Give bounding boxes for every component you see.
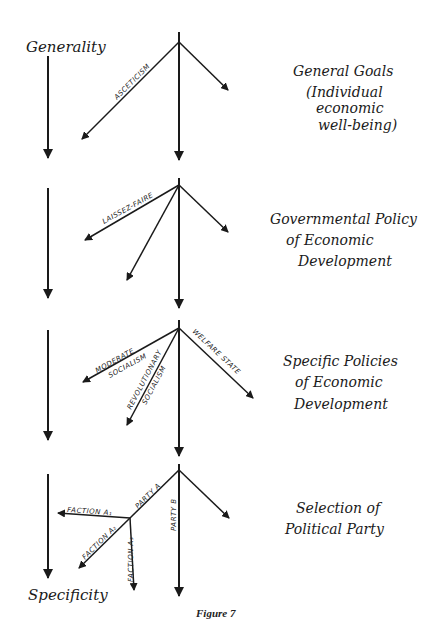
welfare-state-label: WELFARE STATE	[191, 328, 242, 377]
svg-text:of Economic: of Economic	[295, 374, 383, 390]
figure-caption: Figure 7	[195, 607, 236, 619]
level-2-description: Governmental Policy of Economic Developm…	[270, 211, 418, 269]
party-b-label: PARTY B	[170, 498, 178, 531]
svg-text:(Individual: (Individual	[306, 84, 383, 100]
level-general-goals: ASCETICISM General Goals (Individual eco…	[82, 32, 397, 160]
svg-text:economic: economic	[316, 100, 384, 116]
branch-welfare-state	[179, 328, 253, 398]
specificity-label: Specificity	[28, 586, 108, 604]
faction-a2-label: FACTION A₂	[81, 524, 119, 562]
svg-text:Political Party: Political Party	[284, 521, 385, 537]
decision-tree-diagram: Generality Specificity ASCETICISM Genera…	[0, 0, 428, 628]
asceticism-label: ASCETICISM	[112, 62, 152, 102]
level-selection-party: PARTY A PARTY B FACTION A₁ FACTION A₂ FA…	[58, 464, 385, 596]
branch-asceticism	[82, 42, 179, 139]
generality-label: Generality	[26, 38, 106, 56]
branch-right-2	[179, 185, 228, 232]
svg-text:Specific Policies: Specific Policies	[283, 353, 398, 369]
branch-laissez-faire	[85, 185, 179, 240]
level-specific-policies: MODERATE SOCIALISM REVOLUTIONARY SOCIALI…	[83, 320, 398, 456]
svg-text:Development: Development	[297, 253, 392, 269]
laissez-faire-label: LAISSEZ-FAIRE	[101, 191, 155, 226]
level-governmental-policy: LAISSEZ-FAIRE Governmental Policy of Eco…	[85, 178, 418, 308]
faction-a3-label: FACTION A₃	[127, 537, 135, 582]
generality-axis: Generality Specificity	[26, 38, 108, 604]
svg-text:of Economic: of Economic	[286, 232, 374, 248]
level-3-description: Specific Policies of Economic Developmen…	[283, 353, 398, 412]
svg-text:Governmental Policy: Governmental Policy	[270, 211, 418, 227]
svg-text:Development: Development	[293, 396, 388, 412]
svg-text:Selection of: Selection of	[296, 500, 383, 516]
svg-text:well-being): well-being)	[318, 117, 397, 133]
svg-text:General Goals: General Goals	[293, 63, 393, 79]
branch-right-1	[179, 42, 228, 90]
faction-a1-label: FACTION A₁	[67, 506, 113, 517]
branch-right-4	[179, 470, 229, 518]
level-1-description: General Goals (Individual economic well-…	[293, 63, 397, 133]
level-4-description: Selection of Political Party	[284, 500, 385, 537]
party-a-label: PARTY A	[134, 482, 163, 511]
